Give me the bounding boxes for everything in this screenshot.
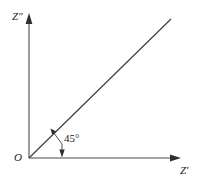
angle-leader-line-upper bbox=[54, 133, 63, 145]
angle-leader-arrowhead-lower bbox=[59, 150, 64, 158]
vertical-axis-arrowhead bbox=[26, 13, 33, 24]
forty-five-degree-line bbox=[29, 19, 171, 158]
horizontal-axis-arrowhead bbox=[170, 155, 181, 162]
angle-leader-arrowhead-upper bbox=[51, 129, 57, 135]
horizontal-axis-label: Z′ bbox=[180, 165, 189, 176]
origin-label: O bbox=[14, 152, 22, 163]
figure-container: Z″ Z′ O 45° bbox=[0, 0, 199, 187]
angle-annotation-label: 45° bbox=[64, 133, 79, 144]
coordinate-diagram bbox=[0, 0, 199, 187]
vertical-axis-label: Z″ bbox=[12, 11, 23, 22]
